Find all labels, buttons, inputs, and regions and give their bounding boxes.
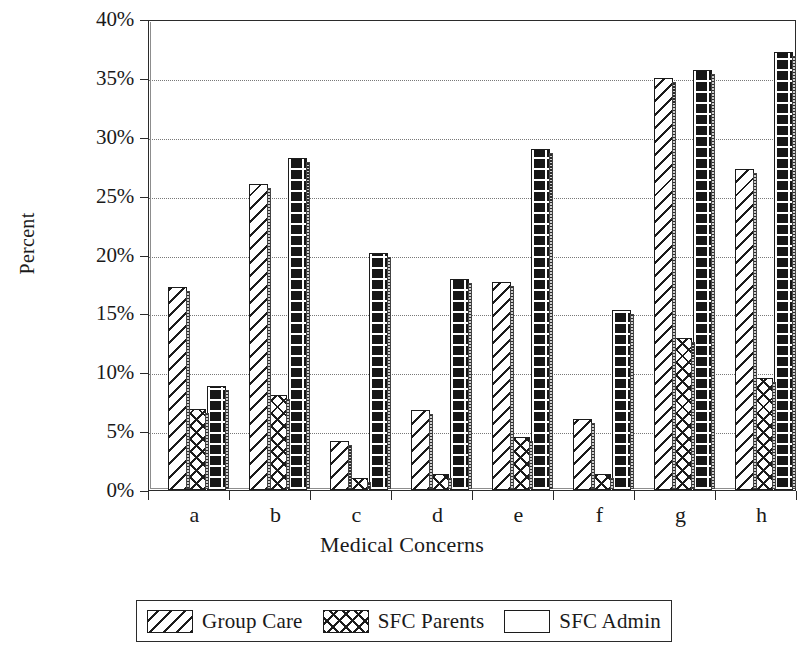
bar-shadow — [630, 314, 634, 489]
y-tick-label: 30% — [72, 127, 134, 148]
bar-h-group-care — [735, 169, 754, 490]
bar-e-sfc-admin — [531, 149, 550, 490]
bar-group — [168, 21, 226, 490]
bar-shadow — [711, 74, 715, 489]
legend-entry-sfc-parents: SFC Parents — [323, 609, 485, 634]
bar-b-group-care — [249, 184, 268, 490]
y-tick-label: 35% — [72, 68, 134, 89]
legend-entry-sfc-admin: SFC Admin — [504, 609, 661, 634]
x-tick-label-g: g — [651, 502, 711, 528]
bar-shadow — [387, 257, 391, 489]
bar-b-sfc-admin — [288, 158, 307, 490]
bar-h-sfc-admin — [774, 52, 793, 490]
bar-shadow — [610, 478, 614, 489]
bar-shadow — [691, 342, 695, 489]
y-tick-label: 15% — [72, 303, 134, 324]
x-tick-mark — [148, 491, 149, 500]
x-tick-mark — [391, 491, 392, 500]
y-tick-label: 25% — [72, 186, 134, 207]
y-tick-mark — [140, 197, 148, 198]
x-tick-label-b: b — [246, 502, 306, 528]
bar-shadow — [448, 478, 452, 489]
legend-entry-group-care: Group Care — [147, 609, 303, 634]
bar-shadow — [468, 283, 472, 489]
bar-shadow — [429, 414, 433, 489]
y-tick-label: 10% — [72, 362, 134, 383]
plot-area — [148, 20, 796, 491]
bar-shadow — [591, 423, 595, 489]
x-tick-label-e: e — [489, 502, 549, 528]
legend-label: SFC Parents — [378, 609, 485, 634]
bar-shadow — [510, 286, 514, 489]
bar-a-sfc-admin — [207, 386, 226, 490]
bar-g-sfc-parents — [673, 338, 692, 490]
x-tick-mark — [553, 491, 554, 500]
bar-group — [411, 21, 469, 490]
y-tick-label: 5% — [72, 421, 134, 442]
bar-group — [735, 21, 793, 490]
y-tick-mark — [140, 20, 148, 21]
x-axis-title: Medical Concerns — [0, 532, 804, 558]
bar-d-group-care — [411, 410, 430, 490]
bar-shadow — [306, 162, 310, 489]
legend-swatch-brick — [504, 610, 550, 633]
bar-group — [249, 21, 307, 490]
bar-d-sfc-parents — [430, 474, 449, 490]
x-tick-mark — [796, 491, 797, 500]
y-tick-label: 0% — [72, 480, 134, 501]
x-tick-label-h: h — [732, 502, 792, 528]
bar-e-sfc-parents — [511, 437, 530, 490]
bar-group — [330, 21, 388, 490]
bar-f-group-care — [573, 419, 592, 490]
bar-shadow — [792, 56, 796, 489]
y-tick-mark — [140, 314, 148, 315]
x-tick-mark — [229, 491, 230, 500]
bar-f-sfc-admin — [612, 310, 631, 490]
bar-shadow — [286, 399, 290, 489]
bar-shadow — [367, 482, 371, 489]
bar-e-group-care — [492, 282, 511, 490]
x-tick-mark — [634, 491, 635, 500]
bar-h-sfc-parents — [754, 378, 773, 490]
x-tick-label-f: f — [570, 502, 630, 528]
y-tick-mark — [140, 373, 148, 374]
y-axis-title: Percent — [16, 189, 39, 299]
bar-shadow — [672, 82, 676, 489]
y-tick-mark — [140, 256, 148, 257]
bar-shadow — [267, 188, 271, 489]
bar-shadow — [348, 445, 352, 489]
chart-figure: Percent 0%5%10%15%20%25%30%35%40% abcdef… — [0, 0, 804, 654]
bar-group — [654, 21, 712, 490]
x-tick-label-a: a — [165, 502, 225, 528]
bar-shadow — [205, 413, 209, 489]
legend-label: SFC Admin — [559, 609, 661, 634]
y-tick-mark — [140, 432, 148, 433]
x-tick-mark — [715, 491, 716, 500]
legend-label: Group Care — [202, 609, 303, 634]
bar-f-sfc-parents — [592, 474, 611, 490]
y-tick-label: 40% — [72, 9, 134, 30]
y-tick-mark — [140, 79, 148, 80]
bar-c-group-care — [330, 441, 349, 490]
x-tick-mark — [472, 491, 473, 500]
x-tick-label-d: d — [408, 502, 468, 528]
x-tick-mark — [310, 491, 311, 500]
y-tick-mark — [140, 138, 148, 139]
bar-shadow — [225, 390, 229, 489]
bar-shadow — [753, 173, 757, 489]
bar-group — [573, 21, 631, 490]
x-tick-label-c: c — [327, 502, 387, 528]
bar-shadow — [549, 153, 553, 489]
legend-swatch-cross-hatch — [323, 610, 369, 633]
bar-shadow — [772, 382, 776, 489]
bar-shadow — [529, 441, 533, 489]
legend-swatch-diagonal-hatch — [147, 610, 193, 633]
bar-b-sfc-parents — [268, 395, 287, 490]
bar-d-sfc-admin — [450, 279, 469, 490]
bar-g-sfc-admin — [693, 70, 712, 490]
bar-c-sfc-admin — [369, 253, 388, 490]
chart-legend: Group CareSFC ParentsSFC Admin — [136, 600, 672, 642]
y-tick-mark — [140, 491, 148, 492]
bar-a-group-care — [168, 287, 187, 490]
bar-shadow — [186, 291, 190, 489]
